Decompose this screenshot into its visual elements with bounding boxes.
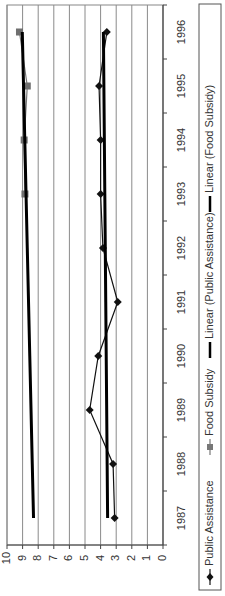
category-tick-label: 1988 bbox=[175, 452, 187, 476]
category-tick-label: 1994 bbox=[175, 128, 187, 152]
value-tick-label: 7 bbox=[47, 555, 59, 561]
category-tick-label: 1990 bbox=[175, 344, 187, 368]
value-tick-label: 10 bbox=[0, 552, 12, 564]
category-tick-label: 1993 bbox=[175, 182, 187, 206]
value-tick-label: 0 bbox=[156, 555, 168, 561]
legend-label: Linear (Public Assistance) bbox=[203, 212, 215, 339]
value-tick-label: 8 bbox=[31, 555, 43, 561]
legend-label: Linear (Food Subsidy) bbox=[203, 85, 215, 193]
legend-item: Linear (Food Subsidy) bbox=[203, 85, 215, 212]
category-tick-label: 1989 bbox=[175, 398, 187, 422]
value-tick-label: 1 bbox=[140, 555, 152, 561]
category-tick-label: 1995 bbox=[175, 74, 187, 98]
legend: Public AssistanceFood SubsidyLinear (Pub… bbox=[199, 4, 221, 590]
square-marker-icon bbox=[207, 444, 213, 450]
legend-label: Food Subsidy bbox=[203, 368, 215, 436]
y-axis: 012345678910 bbox=[0, 545, 168, 564]
value-tick-label: 2 bbox=[125, 555, 137, 561]
value-tick-label: 3 bbox=[109, 555, 121, 561]
value-tick-label: 4 bbox=[94, 555, 106, 561]
legend-label: Public Assistance bbox=[203, 480, 215, 566]
value-tick-label: 6 bbox=[62, 555, 74, 561]
value-tick-label: 5 bbox=[78, 555, 90, 561]
value-tick-label: 9 bbox=[16, 555, 28, 561]
category-tick-label: 1987 bbox=[175, 506, 187, 530]
x-axis: 1987198819891990199119921993199419951996 bbox=[163, 5, 187, 545]
category-tick-label: 1996 bbox=[175, 20, 187, 44]
chart: 1987198819891990199119921993199419951996… bbox=[0, 0, 225, 596]
category-tick-label: 1992 bbox=[175, 236, 187, 260]
category-tick-label: 1991 bbox=[175, 290, 187, 314]
legend-item: Linear (Public Assistance) bbox=[203, 212, 215, 358]
